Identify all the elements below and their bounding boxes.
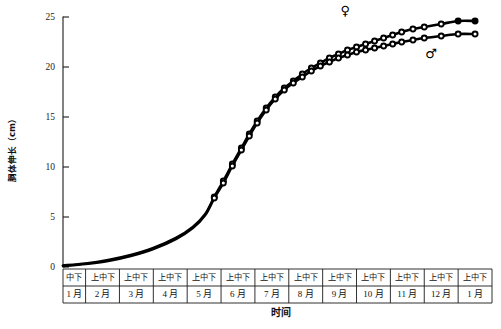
x-cell-month-0: 1 月: [66, 289, 82, 299]
y-tick-label-0: 0: [50, 262, 55, 272]
x-cell-decade-12: 上中下: [463, 272, 487, 282]
data-point: [381, 36, 386, 41]
data-point: [212, 196, 217, 201]
data-point: [410, 38, 415, 43]
x-cell-month-7: 8 月: [298, 289, 314, 299]
growth-curve-figure: 0510152025 胴体伸长（cm） ♀♂ 中下1 月上中下2 月上中下3 月…: [0, 0, 501, 329]
data-point: [439, 34, 444, 39]
data-point: [381, 44, 386, 49]
data-series-group: [63, 19, 478, 267]
data-point: [422, 36, 427, 41]
data-point: [239, 148, 244, 153]
x-cell-decade-3: 上中下: [158, 272, 182, 282]
data-point: [273, 97, 278, 102]
data-point: [410, 27, 415, 32]
x-cell-decade-8: 上中下: [328, 272, 352, 282]
x-cell-month-11: 12 月: [431, 289, 451, 299]
x-axis-title: 时间: [271, 306, 291, 318]
data-point: [399, 40, 404, 45]
series-female: [63, 19, 478, 266]
chart-canvas: 0510152025 胴体伸长（cm） ♀♂ 中下1 月上中下2 月上中下3 月…: [0, 0, 501, 329]
x-cell-month-2: 3 月: [129, 289, 145, 299]
x-cell-month-6: 7 月: [264, 289, 280, 299]
data-point: [345, 53, 350, 58]
series-line-female: [63, 21, 475, 266]
data-point: [390, 33, 395, 38]
data-point: [309, 69, 314, 74]
x-cell-month-10: 11 月: [397, 289, 417, 299]
data-point: [456, 19, 461, 24]
x-cell-month-5: 6 月: [230, 289, 246, 299]
x-cell-decade-5: 上中下: [226, 272, 250, 282]
x-cell-decade-0: 中下: [66, 272, 82, 282]
x-cell-decade-1: 上中下: [91, 272, 115, 282]
data-point: [439, 22, 444, 27]
y-axis: [63, 17, 69, 267]
data-point: [390, 42, 395, 47]
male-symbol: ♂: [425, 46, 437, 61]
data-point: [300, 75, 305, 80]
x-cell-month-8: 9 月: [332, 289, 348, 299]
data-point: [318, 64, 323, 69]
data-point: [336, 56, 341, 61]
y-axis-title: 胴体伸长（cm）: [7, 114, 17, 183]
data-point: [372, 46, 377, 51]
x-cell-decade-9: 上中下: [361, 272, 385, 282]
data-point: [291, 81, 296, 86]
data-point: [363, 48, 368, 53]
data-point: [399, 30, 404, 35]
data-point: [422, 25, 427, 30]
data-point: [354, 50, 359, 55]
data-point: [372, 39, 377, 44]
x-cell-decade-10: 上中下: [395, 272, 419, 282]
data-point: [473, 19, 478, 24]
y-tick-label-10: 10: [46, 162, 56, 172]
data-point: [264, 108, 269, 113]
x-cell-decade-7: 上中下: [294, 272, 318, 282]
x-cell-decade-2: 上中下: [124, 272, 148, 282]
x-cell-month-3: 4 月: [162, 289, 178, 299]
x-cell-decade-6: 上中下: [260, 272, 284, 282]
y-tick-label-25: 25: [46, 12, 56, 22]
x-cell-decade-11: 上中下: [429, 272, 453, 282]
data-point: [247, 134, 252, 139]
series-line-male: [63, 34, 475, 266]
x-cell-month-9: 10 月: [363, 289, 383, 299]
female-symbol: ♀: [340, 3, 350, 18]
y-tick-labels: 0510152025: [46, 12, 56, 272]
x-axis-month-table: 中下1 月上中下2 月上中下3 月上中下4 月上中下5 月上中下6 月上中下7 …: [63, 269, 492, 303]
data-point: [282, 88, 287, 93]
data-point: [473, 32, 478, 37]
x-cell-decade-4: 上中下: [192, 272, 216, 282]
y-tick-label-15: 15: [46, 112, 56, 122]
y-tick-label-20: 20: [46, 62, 56, 72]
x-cell-month-12: 1 月: [467, 289, 483, 299]
data-point: [255, 121, 260, 126]
y-tick-label-5: 5: [50, 212, 55, 222]
data-point: [221, 181, 226, 186]
data-point: [327, 60, 332, 65]
x-cell-month-4: 5 月: [196, 289, 212, 299]
data-point: [456, 32, 461, 37]
data-point: [363, 42, 368, 47]
x-cell-month-1: 2 月: [95, 289, 111, 299]
data-point: [230, 164, 235, 169]
series-male: [63, 32, 478, 267]
